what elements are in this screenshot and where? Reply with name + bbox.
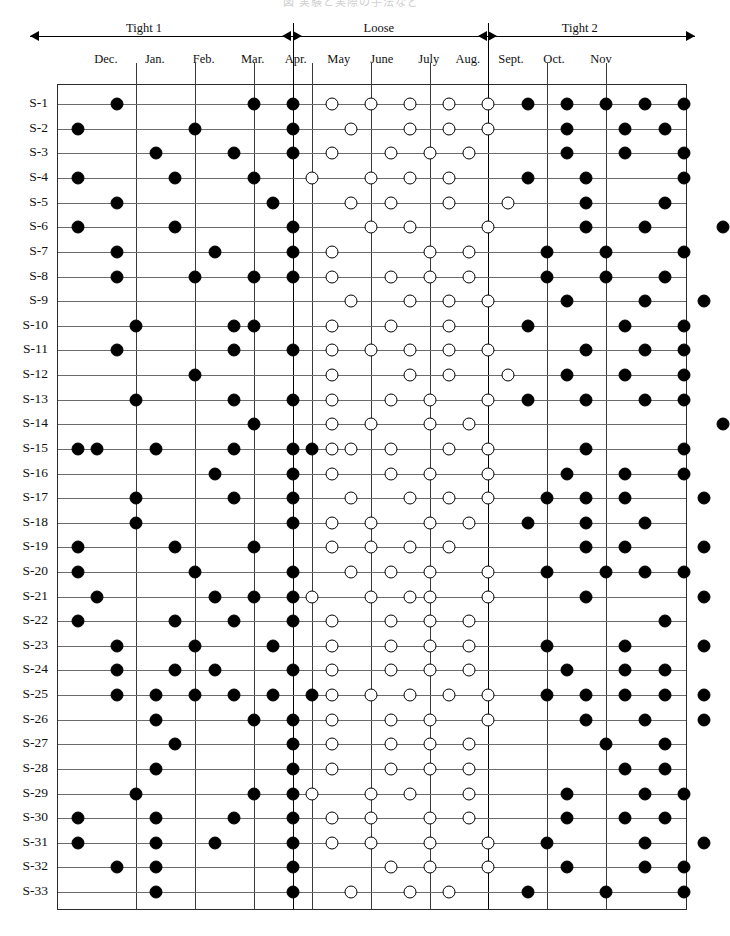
month-label: Mar. xyxy=(241,52,264,67)
filled-circle-marker xyxy=(208,467,221,480)
open-circle-marker xyxy=(462,245,475,258)
filled-circle-marker xyxy=(638,713,651,726)
open-circle-marker xyxy=(325,812,338,825)
filled-circle-marker xyxy=(560,787,573,800)
filled-circle-marker xyxy=(71,221,84,234)
column-gridline xyxy=(488,23,489,909)
filled-circle-marker xyxy=(560,664,573,677)
row-label: S-17 xyxy=(0,489,48,505)
open-circle-marker xyxy=(462,615,475,628)
filled-circle-marker xyxy=(619,762,632,775)
open-circle-marker xyxy=(443,541,456,554)
filled-circle-marker xyxy=(638,787,651,800)
filled-circle-marker xyxy=(247,787,260,800)
open-circle-marker xyxy=(502,196,515,209)
row-label: S-12 xyxy=(0,366,48,382)
row-label: S-14 xyxy=(0,415,48,431)
month-label: Aug. xyxy=(456,52,481,67)
filled-circle-marker xyxy=(619,812,632,825)
open-circle-marker xyxy=(384,639,397,652)
row-label: S-29 xyxy=(0,785,48,801)
open-circle-marker xyxy=(384,270,397,283)
open-circle-marker xyxy=(365,516,378,529)
row-label: S-31 xyxy=(0,834,48,850)
open-circle-marker xyxy=(384,393,397,406)
open-circle-marker xyxy=(423,713,436,726)
filled-circle-marker xyxy=(678,344,691,357)
filled-circle-marker xyxy=(619,492,632,505)
filled-circle-marker xyxy=(619,664,632,677)
open-circle-marker xyxy=(404,295,417,308)
filled-circle-marker xyxy=(580,196,593,209)
month-label: June xyxy=(370,52,393,67)
filled-circle-marker xyxy=(286,615,299,628)
filled-circle-marker xyxy=(247,98,260,111)
filled-circle-marker xyxy=(286,344,299,357)
row-label: S-3 xyxy=(0,144,48,160)
row-label: S-4 xyxy=(0,169,48,185)
row-label: S-9 xyxy=(0,292,48,308)
open-circle-marker xyxy=(443,122,456,135)
filled-circle-marker xyxy=(208,245,221,258)
phase-marker-loose: Loose xyxy=(282,22,497,46)
open-circle-marker xyxy=(482,689,495,702)
filled-circle-marker xyxy=(580,713,593,726)
filled-circle-marker xyxy=(188,270,201,283)
open-circle-marker xyxy=(365,812,378,825)
month-header: Dec.Jan.Feb.Mar.Apr.MayJuneJulyAug.Sept.… xyxy=(0,52,702,74)
open-circle-marker xyxy=(443,886,456,899)
open-circle-marker xyxy=(306,590,319,603)
open-circle-marker xyxy=(325,393,338,406)
month-label: Sept. xyxy=(498,52,523,67)
open-circle-marker xyxy=(325,762,338,775)
filled-circle-marker xyxy=(521,98,534,111)
open-circle-marker xyxy=(423,812,436,825)
filled-circle-marker xyxy=(110,98,123,111)
open-circle-marker xyxy=(384,738,397,751)
filled-circle-marker xyxy=(580,590,593,603)
month-label: May xyxy=(327,52,350,67)
filled-circle-marker xyxy=(560,98,573,111)
open-circle-marker xyxy=(462,270,475,283)
filled-circle-marker xyxy=(638,516,651,529)
filled-circle-marker xyxy=(188,689,201,702)
filled-circle-marker xyxy=(697,689,710,702)
open-circle-marker xyxy=(325,836,338,849)
filled-circle-marker xyxy=(560,295,573,308)
filled-circle-marker xyxy=(188,122,201,135)
filled-circle-marker xyxy=(228,812,241,825)
month-label: July xyxy=(418,52,439,67)
filled-circle-marker xyxy=(658,122,671,135)
filled-circle-marker xyxy=(541,270,554,283)
open-circle-marker xyxy=(325,344,338,357)
open-circle-marker xyxy=(345,886,358,899)
row-label: S-8 xyxy=(0,268,48,284)
open-circle-marker xyxy=(423,738,436,751)
filled-circle-marker xyxy=(286,886,299,899)
open-circle-marker xyxy=(325,516,338,529)
filled-circle-marker xyxy=(619,467,632,480)
filled-circle-marker xyxy=(619,122,632,135)
filled-circle-marker xyxy=(580,393,593,406)
filled-circle-marker xyxy=(228,344,241,357)
open-circle-marker xyxy=(462,787,475,800)
phase-label: Tight 2 xyxy=(556,21,604,36)
filled-circle-marker xyxy=(110,270,123,283)
filled-circle-marker xyxy=(580,172,593,185)
filled-circle-marker xyxy=(678,565,691,578)
month-label: Apr. xyxy=(285,52,307,67)
open-circle-marker xyxy=(325,245,338,258)
filled-circle-marker xyxy=(286,221,299,234)
filled-circle-marker xyxy=(541,565,554,578)
row-gridline xyxy=(58,646,686,647)
open-circle-marker xyxy=(423,516,436,529)
filled-circle-marker xyxy=(110,861,123,874)
row-label: S-22 xyxy=(0,612,48,628)
filled-circle-marker xyxy=(580,492,593,505)
row-label: S-2 xyxy=(0,120,48,136)
filled-circle-marker xyxy=(130,516,143,529)
filled-circle-marker xyxy=(110,196,123,209)
open-circle-marker xyxy=(325,664,338,677)
open-circle-marker xyxy=(482,221,495,234)
filled-circle-marker xyxy=(678,319,691,332)
